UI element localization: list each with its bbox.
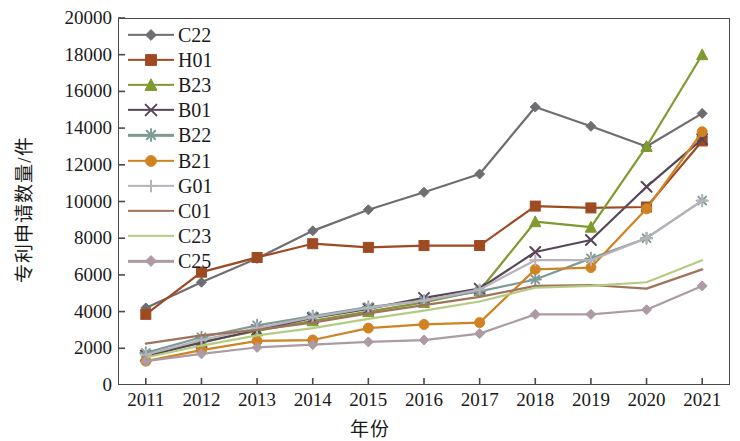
x-tick-label: 2020 [628, 389, 666, 411]
legend-marker-icon [142, 76, 160, 94]
legend-swatch [128, 72, 174, 97]
data-point-marker [146, 29, 157, 40]
legend-line [128, 210, 174, 212]
legend-label: C22 [174, 25, 211, 45]
legend-swatch [128, 22, 174, 47]
legend-line [128, 235, 174, 237]
data-point-marker [475, 329, 485, 339]
data-point-marker [145, 79, 157, 91]
x-tick-label: 2018 [516, 389, 554, 411]
data-point-marker [642, 182, 652, 192]
legend-item-C22[interactable]: C22 [128, 22, 260, 47]
data-point-marker [419, 335, 429, 345]
legend-item-B23[interactable]: B23 [128, 72, 260, 97]
chart-figure: 专利申请数量/件 年份 0200040006000800010000120001… [0, 0, 740, 441]
data-point-marker [196, 277, 206, 287]
legend-swatch [128, 47, 174, 72]
legend-marker-icon [142, 51, 160, 69]
x-tick-label: 2021 [683, 389, 721, 411]
data-point-marker [586, 203, 596, 213]
data-point-marker [697, 49, 708, 60]
legend-swatch [128, 224, 174, 249]
x-tick-label: 2017 [461, 389, 499, 411]
legend-marker-icon [142, 152, 160, 170]
legend-label: H01 [174, 50, 212, 70]
data-point-marker [530, 309, 540, 319]
data-point-marker [586, 121, 596, 131]
legend-label: B21 [174, 151, 211, 171]
x-tick-label: 2012 [182, 389, 220, 411]
x-tick-label: 2011 [127, 389, 164, 411]
legend-swatch [128, 249, 174, 274]
legend-swatch [128, 198, 174, 223]
legend-item-C25[interactable]: C25 [128, 249, 260, 274]
data-point-marker [475, 241, 485, 251]
legend-marker-icon [142, 101, 160, 119]
data-point-marker [419, 319, 429, 329]
x-tick-label: 2016 [405, 389, 443, 411]
data-point-marker [642, 204, 652, 214]
legend-marker-icon [142, 252, 160, 270]
data-point-marker [146, 54, 157, 65]
data-point-marker [363, 323, 373, 333]
data-point-marker [363, 205, 373, 215]
legend-swatch [128, 123, 174, 148]
legend-item-C23[interactable]: C23 [128, 224, 260, 249]
data-point-marker [697, 127, 707, 137]
data-point-marker [363, 337, 373, 347]
x-tick-label: 2015 [349, 389, 387, 411]
legend-item-C01[interactable]: C01 [128, 198, 260, 223]
data-point-marker [308, 226, 318, 236]
legend-marker-icon [142, 26, 160, 44]
chart-legend: C22H01B23B01B22B21G01C01C23C25 [128, 22, 260, 274]
data-point-marker [308, 239, 318, 249]
legend-marker-icon [142, 177, 160, 195]
data-point-marker [697, 108, 707, 118]
x-tick-label: 2014 [294, 389, 332, 411]
legend-swatch [128, 148, 174, 173]
data-point-marker [145, 129, 157, 141]
legend-item-B22[interactable]: B22 [128, 123, 260, 148]
legend-swatch [128, 173, 174, 198]
legend-label: B22 [174, 125, 211, 145]
data-point-marker [363, 242, 373, 252]
x-tick-label: 2019 [572, 389, 610, 411]
data-point-marker [530, 274, 541, 285]
legend-label: G01 [174, 176, 212, 196]
legend-marker-icon [142, 126, 160, 144]
data-point-marker [642, 305, 652, 315]
data-point-marker [146, 180, 157, 191]
legend-label: B23 [174, 75, 211, 95]
legend-item-H01[interactable]: H01 [128, 47, 260, 72]
data-point-marker [530, 201, 540, 211]
legend-label: C23 [174, 226, 211, 246]
data-point-marker [146, 155, 157, 166]
data-point-marker [586, 309, 596, 319]
data-point-marker [419, 187, 429, 197]
legend-label: C01 [174, 201, 211, 221]
data-point-marker [141, 309, 151, 319]
data-point-marker [697, 281, 707, 291]
legend-label: B01 [174, 100, 211, 120]
chart-canvas [0, 0, 740, 441]
data-point-marker [146, 105, 157, 116]
legend-item-B21[interactable]: B21 [128, 148, 260, 173]
legend-item-G01[interactable]: G01 [128, 173, 260, 198]
legend-swatch [128, 98, 174, 123]
data-point-marker [475, 318, 485, 328]
data-point-marker [419, 241, 429, 251]
x-tick-label: 2013 [238, 389, 276, 411]
data-point-marker [146, 256, 157, 267]
legend-item-B01[interactable]: B01 [128, 98, 260, 123]
legend-label: C25 [174, 251, 211, 271]
